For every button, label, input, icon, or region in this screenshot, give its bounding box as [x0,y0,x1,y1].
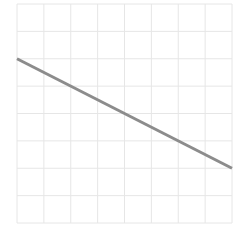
line-chart [0,0,240,227]
